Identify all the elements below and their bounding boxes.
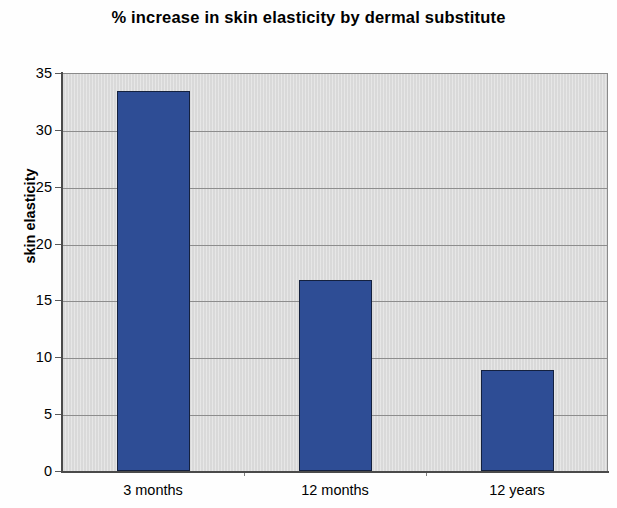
y-axis-tick-label: 10 [12,349,52,365]
y-axis-tick-label: 15 [12,292,52,308]
y-axis-tick-group: 05101520253035 [0,0,52,508]
x-axis-line [61,471,609,473]
y-axis-tick-label: 20 [12,236,52,252]
bar [299,280,372,471]
chart-title: % increase in skin elasticity by dermal … [0,8,617,27]
bar-chart-figure: % increase in skin elasticity by dermal … [0,0,617,508]
bar [481,370,554,471]
x-axis-tick-label: 12 months [301,482,369,498]
y-axis-tick-label: 30 [12,122,52,138]
bar [117,91,190,471]
y-axis-tick-label: 25 [12,179,52,195]
y-axis-tick-label: 35 [12,65,52,81]
y-axis-line [61,72,63,472]
x-axis-tick-label: 3 months [123,482,183,498]
plot-area [62,73,608,471]
x-axis-tick-label: 12 years [489,482,545,498]
y-axis-tick-label: 5 [12,406,52,422]
y-axis-tick-label: 0 [12,463,52,479]
